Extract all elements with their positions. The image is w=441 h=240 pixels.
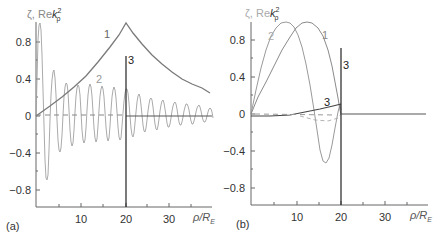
svg-text:−0.4: −0.4 xyxy=(223,145,245,157)
panel-b-curve-3-dashed xyxy=(255,114,335,115)
panel-b: ζ, Rek2ρ 0.8 0.4 0 −0.4 −0.8 xyxy=(223,6,432,230)
svg-text:0.4: 0.4 xyxy=(230,71,245,83)
svg-text:0.8: 0.8 xyxy=(16,36,31,48)
svg-text:0.8: 0.8 xyxy=(230,34,245,46)
svg-text:−0.8: −0.8 xyxy=(223,182,245,194)
panel-b-xlabel: ρ/RE xyxy=(409,209,432,223)
svg-text:−0.8: −0.8 xyxy=(9,184,31,196)
svg-text:0: 0 xyxy=(239,108,245,120)
panel-b-label: (b) xyxy=(236,218,249,230)
panel-a-y-tick-labels: 0.8 0.4 0 −0.4 −0.8 xyxy=(9,36,31,196)
panel-a-curve-2 xyxy=(36,23,213,180)
svg-text:10: 10 xyxy=(291,211,303,223)
svg-text:20: 20 xyxy=(120,213,132,225)
svg-text:2: 2 xyxy=(268,30,274,42)
panel-a-x-tick-labels: 10 20 30 xyxy=(75,213,175,225)
figure: ζ, Rek2ρ 0.8 0.4 0 −0.4 −0.8 xyxy=(0,0,441,240)
svg-text:1: 1 xyxy=(104,28,110,40)
svg-text:0: 0 xyxy=(25,110,31,122)
panel-b-y-tick-labels: 0.8 0.4 0 −0.4 −0.8 xyxy=(223,34,245,194)
svg-text:0.4: 0.4 xyxy=(16,73,31,85)
panel-a-label: (a) xyxy=(6,220,19,232)
svg-text:2: 2 xyxy=(96,73,102,85)
panel-b-ylabel: ζ, Rek2ρ xyxy=(245,6,280,22)
svg-text:10: 10 xyxy=(75,213,87,225)
svg-text:3: 3 xyxy=(343,59,349,71)
svg-text:30: 30 xyxy=(379,211,391,223)
panel-a-xlabel: ρ/RE xyxy=(192,211,215,225)
panel-a: ζ, Rek2ρ 0.8 0.4 0 −0.4 −0.8 xyxy=(6,7,215,232)
svg-text:30: 30 xyxy=(163,213,175,225)
panel-a-ylabel: ζ, Rek2ρ xyxy=(27,7,62,23)
panel-b-y-ticks xyxy=(251,40,255,188)
svg-text:3: 3 xyxy=(324,96,330,108)
panel-b-curve-labels: 1 2 3 3 xyxy=(268,29,349,108)
panel-b-x-tick-labels: 10 20 30 xyxy=(291,211,391,223)
svg-text:3: 3 xyxy=(128,54,134,66)
svg-text:1: 1 xyxy=(322,29,328,41)
panel-a-x-ticks xyxy=(59,203,191,207)
svg-text:20: 20 xyxy=(335,211,347,223)
panel-b-curve-2 xyxy=(251,22,341,163)
svg-text:−0.4: −0.4 xyxy=(9,147,31,159)
panel-a-curve-1 xyxy=(36,23,210,116)
